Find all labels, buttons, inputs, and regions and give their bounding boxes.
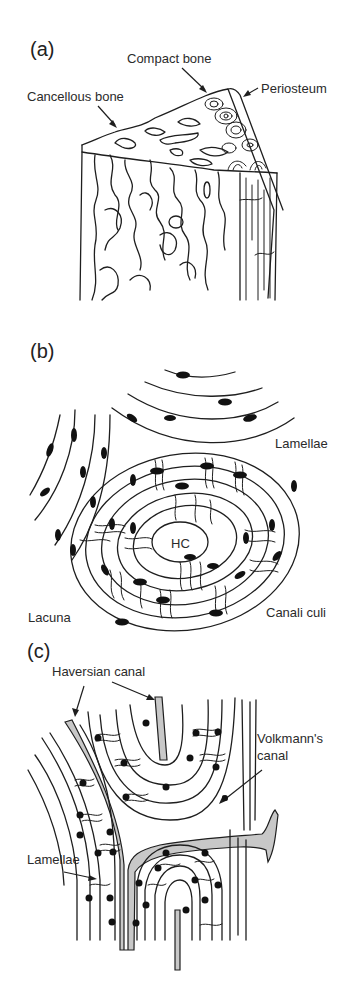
label-hc: HC	[171, 536, 190, 551]
bone-wedge-illustration	[0, 0, 345, 310]
osteon-illustration: HC	[0, 310, 345, 640]
panel-b-osteon-cross-section: (b) Lamellae Lacuna Canali culi HC	[0, 310, 345, 640]
panel-c-longitudinal-section: (c) Haversian canal Volkmann's canal Lam…	[0, 640, 345, 981]
longitudinal-bone-illustration	[0, 640, 345, 981]
panel-a-bone-section: (a) Compact bone Cancellous bone Periost…	[0, 0, 345, 310]
